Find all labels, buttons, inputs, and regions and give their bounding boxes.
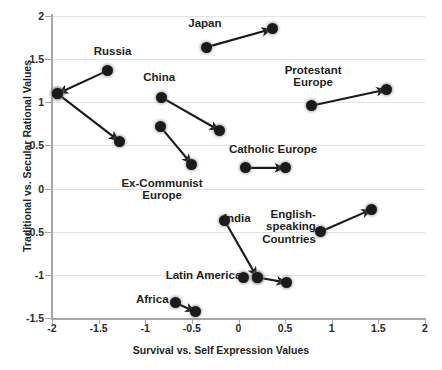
x-axis-tick-label: 2 bbox=[422, 322, 428, 334]
data-point bbox=[240, 162, 251, 173]
gridline bbox=[52, 102, 425, 103]
y-axis-tick bbox=[45, 16, 52, 17]
data-point-label: English- speaking Countries bbox=[262, 208, 316, 245]
y-axis-tick bbox=[45, 318, 52, 319]
y-axis-tick bbox=[45, 189, 52, 190]
y-axis-tick bbox=[45, 145, 52, 146]
data-point bbox=[280, 162, 291, 173]
data-point bbox=[156, 92, 167, 103]
data-point bbox=[170, 297, 181, 308]
data-point-label: Protestant Europe bbox=[285, 64, 342, 88]
gridline bbox=[52, 59, 425, 60]
data-point-label: Japan bbox=[188, 17, 221, 29]
data-point bbox=[252, 272, 263, 283]
x-axis-tick-label: 0.5 bbox=[278, 322, 293, 334]
y-axis-tick bbox=[45, 275, 52, 276]
data-point-label: Africa bbox=[136, 293, 169, 305]
data-point-label: India bbox=[224, 212, 251, 224]
x-axis-title: Survival vs. Self Expression Values bbox=[0, 344, 442, 356]
data-point bbox=[201, 42, 212, 53]
x-axis-tick-label: 0 bbox=[236, 322, 242, 334]
gridline bbox=[52, 189, 425, 190]
x-axis-tick-label: 1 bbox=[329, 322, 335, 334]
gridline bbox=[52, 16, 425, 17]
data-point-label: Ex-Communist Europe bbox=[121, 177, 202, 201]
x-axis-tick-label: 1.5 bbox=[371, 322, 386, 334]
y-axis-tick-label: -1.5 bbox=[0, 312, 44, 324]
data-point bbox=[114, 136, 125, 147]
y-axis-tick bbox=[45, 102, 52, 103]
data-point-label: China bbox=[143, 71, 175, 83]
data-point bbox=[267, 23, 278, 34]
data-point-label: Catholic Europe bbox=[229, 143, 317, 155]
data-point bbox=[306, 100, 317, 111]
x-axis-tick-label: -1 bbox=[141, 322, 150, 334]
y-axis-tick bbox=[45, 232, 52, 233]
data-point bbox=[155, 121, 166, 132]
y-axis-tick bbox=[45, 59, 52, 60]
y-axis-title: Traditional vs. Secular Rational Values bbox=[21, 41, 33, 271]
x-axis-tick-label: -0.5 bbox=[183, 322, 201, 334]
x-axis-tick-label: -2 bbox=[47, 322, 56, 334]
y-axis-tick-label: 2 bbox=[0, 10, 44, 22]
data-point-label: Latin America bbox=[166, 269, 242, 281]
data-point-label: Russia bbox=[94, 45, 132, 57]
gridline bbox=[52, 232, 425, 233]
x-axis-tick-label: -1.5 bbox=[90, 322, 108, 334]
inglehart-welzel-cultural-map-chart: 21.510.50-0.5-1-1.5 -2-1.5-1-0.500.511.5… bbox=[0, 0, 442, 370]
